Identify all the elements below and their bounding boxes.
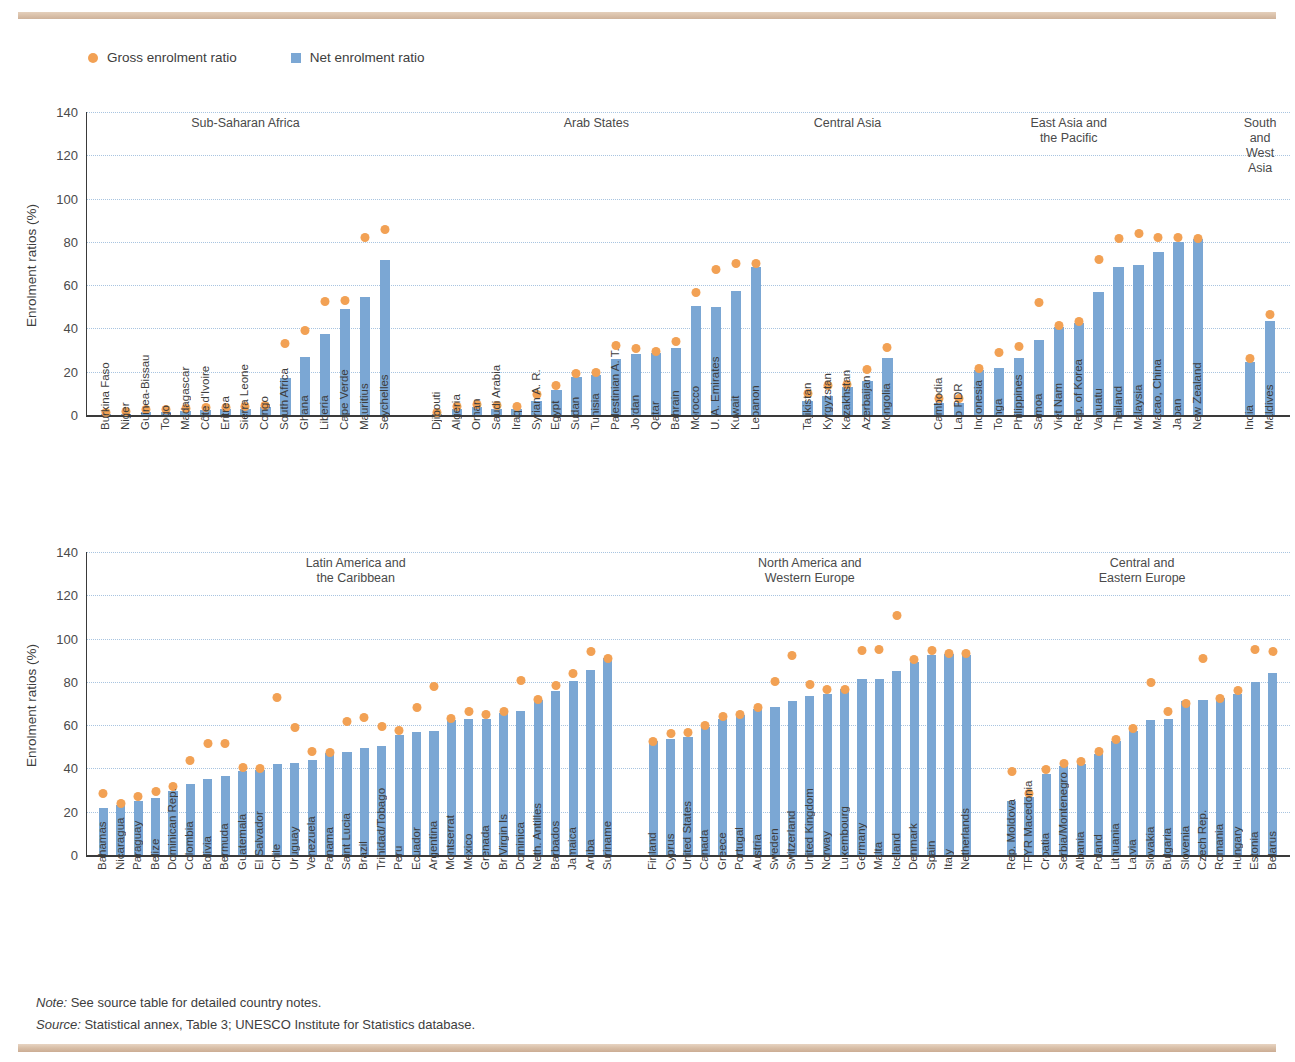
x-axis-category-label: Canada (698, 830, 710, 870)
x-axis-category-label: Czech Rep. (1196, 810, 1208, 870)
dot-gross-enrolment (412, 703, 421, 712)
bar-net-enrolment (1173, 242, 1183, 415)
dot-gross-enrolment (342, 717, 351, 726)
region-title: North America and Western Europe (758, 556, 862, 586)
dot-gross-enrolment (186, 756, 195, 765)
dot-gross-enrolment (1174, 233, 1183, 242)
x-axis-category-label: Madagascar (179, 367, 191, 430)
x-axis-category-label: Panama (323, 827, 335, 870)
y-axis-tick: 20 (44, 364, 78, 379)
dot-gross-enrolment (552, 381, 561, 390)
dot-gross-enrolment (482, 710, 491, 719)
chart-top: Enrolment ratios (%)020406080100120140Bu… (24, 100, 1295, 500)
x-axis-category-label: United Kingdom (803, 788, 815, 870)
y-axis-tick: 100 (44, 191, 78, 206)
x-axis-category-label: El Salvador (253, 811, 265, 870)
dot-gross-enrolment (1246, 354, 1255, 363)
note-text: See source table for detailed country no… (67, 995, 321, 1010)
x-axis-category-label: Uruguay (288, 827, 300, 870)
x-axis-category-label: Congo (258, 396, 270, 430)
gridline (87, 242, 1290, 243)
dot-gross-enrolment (1114, 234, 1123, 243)
dot-gross-enrolment (805, 680, 814, 689)
gridline (87, 372, 1290, 373)
x-axis-category-label: Samoa (1032, 394, 1044, 430)
x-axis-category-label: Austria (751, 834, 763, 870)
x-axis-category-label: Bermuda (218, 823, 230, 870)
bar-net-enrolment (892, 671, 901, 855)
x-axis-category-label: Argentina (427, 821, 439, 870)
bar-net-enrolment (1251, 682, 1260, 855)
x-axis-category-label: Malaysia (1132, 385, 1144, 430)
y-axis-tick: 0 (44, 848, 78, 863)
x-axis-category-label: Lebanon (749, 385, 761, 430)
x-axis-category-label: Japan (1171, 399, 1183, 430)
dot-gross-enrolment (99, 789, 108, 798)
x-axis-category-label: Lao PDR (952, 383, 964, 430)
dot-gross-enrolment (1129, 724, 1138, 733)
dot-gross-enrolment (290, 723, 299, 732)
dot-gross-enrolment (572, 369, 581, 378)
x-axis-category-label: Switzerland (785, 811, 797, 870)
bar-net-enrolment (395, 735, 404, 855)
dot-gross-enrolment (1266, 310, 1275, 319)
y-axis-tick: 80 (44, 234, 78, 249)
y-axis-tick: 40 (44, 761, 78, 776)
x-axis-category-label: Chile (270, 844, 282, 870)
region-title: Arab States (564, 116, 629, 131)
x-axis-category-label: Tonga (992, 399, 1004, 430)
x-axis-category-label: Latvia (1126, 839, 1138, 870)
dot-gross-enrolment (753, 703, 762, 712)
legend-item-net: Net enrolment ratio (291, 50, 425, 65)
dot-gross-enrolment (341, 296, 350, 305)
y-axis-tick: 140 (44, 105, 78, 120)
chart-legend: Gross enrolment ratio Net enrolment rati… (88, 50, 425, 65)
y-axis-tick: 60 (44, 278, 78, 293)
gridline (87, 725, 1290, 726)
region-title: Central and Eastern Europe (1099, 556, 1186, 586)
dot-gross-enrolment (381, 225, 390, 234)
region-title: East Asia and the Pacific (1031, 116, 1107, 146)
x-axis-category-label: Burkina Faso (99, 362, 111, 430)
dot-gross-enrolment (499, 707, 508, 716)
gridline (87, 328, 1290, 329)
x-axis-category-label: Bahamas (96, 821, 108, 870)
dot-gross-enrolment (962, 649, 971, 658)
dot-gross-enrolment (1164, 707, 1173, 716)
x-axis-category-label: Sweden (768, 828, 780, 870)
dot-gross-enrolment (883, 343, 892, 352)
x-axis-category-label: Brazil (357, 841, 369, 870)
x-axis-category-label: Kazakhstan (840, 370, 852, 430)
x-axis-category-label: Croatia (1039, 833, 1051, 870)
x-axis-category-label: Macao, China (1151, 359, 1163, 430)
dot-gross-enrolment (301, 326, 310, 335)
x-axis-category-label: Algeria (450, 394, 462, 430)
x-axis-category-label: Aruba (584, 839, 596, 870)
dot-gross-enrolment (1112, 735, 1121, 744)
x-axis-category-label: New Zealand (1191, 362, 1203, 430)
bar-net-enrolment (360, 748, 369, 855)
x-axis-category-label: United States (681, 801, 693, 870)
dot-gross-enrolment (857, 646, 866, 655)
x-axis-category-label: Egypt (549, 401, 561, 430)
dot-gross-enrolment (1094, 255, 1103, 264)
source-line: Source: Statistical annex, Table 3; UNES… (36, 1017, 475, 1032)
x-axis-category-label: Sierra Leone (238, 364, 250, 430)
gross-dot-icon (88, 53, 98, 63)
dot-gross-enrolment (1014, 342, 1023, 351)
dot-gross-enrolment (325, 748, 334, 757)
y-axis-tick: 120 (44, 588, 78, 603)
x-axis-category-label: Syrian A. R. (530, 369, 542, 430)
x-axis-category-label: Italy (942, 849, 954, 870)
dot-gross-enrolment (592, 368, 601, 377)
dot-gross-enrolment (1134, 229, 1143, 238)
x-axis-category-label: Niger (119, 403, 131, 430)
x-axis-category-label: Morocco (689, 386, 701, 430)
x-axis-category-label: Liberia (318, 395, 330, 430)
x-axis-category-label: Kyrgyzstan (821, 373, 833, 430)
x-axis-category-label: Nicaragua (114, 818, 126, 870)
x-axis-category-label: Qatar (649, 401, 661, 430)
gridline (87, 285, 1290, 286)
x-axis-category-label: Bahrain (669, 390, 681, 430)
dot-gross-enrolment (1054, 321, 1063, 330)
